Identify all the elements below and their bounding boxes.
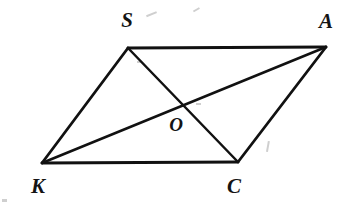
scan-artifact-speck [196, 103, 201, 105]
scan-artifact-speck [193, 7, 200, 12]
vertex-label-K: K [30, 174, 47, 198]
vertex-label-A: A [317, 9, 333, 33]
scan-artifact-speck [146, 11, 157, 17]
scan-artifact-speck [266, 141, 270, 152]
parallelogram-diagram: S A C K O [0, 0, 357, 208]
scan-artifact-speck [2, 199, 7, 202]
vertex-label-S: S [121, 8, 133, 32]
edge-CK [42, 162, 238, 163]
vertex-label-C: C [227, 174, 242, 198]
scan-artifact-group [2, 7, 270, 202]
intersection-label-O: O [169, 114, 183, 135]
geometry-figure-canvas: S A C K O [0, 0, 357, 208]
edge-SA [128, 47, 326, 48]
